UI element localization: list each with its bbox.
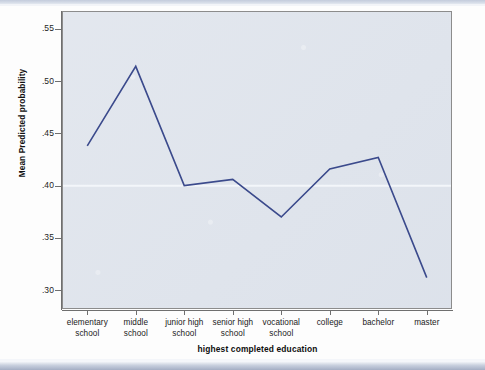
y-tick-label: .35 — [14, 233, 54, 242]
x-tick-mark — [281, 310, 282, 315]
y-axis-line — [61, 11, 62, 310]
x-axis-line — [62, 310, 453, 311]
x-tick-label-line: master — [395, 318, 459, 329]
x-tick-mark — [184, 310, 185, 315]
line-chart: .30.35.40.45.50.55 elementaryschoolmiddl… — [0, 6, 485, 362]
y-tick-mark — [55, 238, 61, 239]
y-tick-mark — [55, 81, 61, 82]
plot-area — [62, 11, 452, 309]
y-axis-title: Mean Predicted probability — [17, 43, 27, 203]
x-tick-mark — [330, 310, 331, 315]
x-tick-mark — [136, 310, 137, 315]
x-tick-label-line: school — [249, 329, 313, 340]
y-tick-label: .30 — [14, 286, 54, 295]
x-tick-mark — [87, 310, 88, 315]
y-tick-mark — [55, 133, 61, 134]
x-axis-title: highest completed education — [62, 344, 453, 354]
x-tick-mark — [378, 310, 379, 315]
y-tick-label: .55 — [14, 24, 54, 33]
scan-artifact-bottom-bar — [0, 362, 485, 370]
y-tick-mark — [55, 290, 61, 291]
plot-svg — [63, 12, 451, 308]
y-tick-mark — [55, 186, 61, 187]
x-tick-mark — [233, 310, 234, 315]
data-series-line — [87, 66, 427, 277]
y-tick-mark — [55, 29, 61, 30]
chart-page: .30.35.40.45.50.55 elementaryschoolmiddl… — [0, 0, 485, 370]
x-tick-label: master — [395, 318, 459, 329]
x-tick-mark — [427, 310, 428, 315]
